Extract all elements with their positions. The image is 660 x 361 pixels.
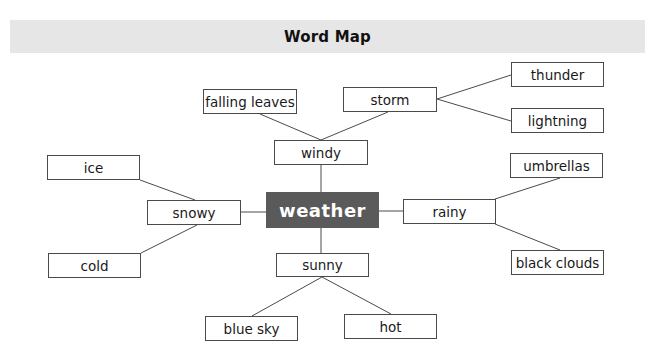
node-label: falling leaves bbox=[205, 94, 294, 110]
node-label: black clouds bbox=[516, 255, 600, 271]
node-label: thunder bbox=[531, 67, 584, 83]
edge-snowy-cold bbox=[141, 225, 197, 253]
node-storm: storm bbox=[343, 87, 437, 112]
node-rainy: rainy bbox=[403, 199, 496, 224]
node-label: umbrellas bbox=[523, 158, 590, 174]
node-cold: cold bbox=[48, 253, 141, 278]
node-label: snowy bbox=[173, 205, 216, 221]
node-label: rainy bbox=[432, 204, 466, 220]
node-snowy: snowy bbox=[147, 200, 241, 225]
edge-sunny-blue-sky bbox=[252, 277, 322, 316]
node-falling-leaves: falling leaves bbox=[203, 89, 297, 114]
node-label: weather bbox=[279, 200, 366, 221]
node-label: cold bbox=[80, 258, 108, 274]
node-label: hot bbox=[379, 319, 401, 335]
edge-rainy-black-clouds bbox=[495, 224, 560, 250]
node-umbrellas: umbrellas bbox=[510, 153, 603, 178]
node-sunny: sunny bbox=[276, 253, 369, 277]
node-thunder: thunder bbox=[511, 62, 604, 87]
edge-sunny-hot bbox=[322, 277, 391, 314]
node-ice: ice bbox=[47, 155, 140, 180]
node-lightning: lightning bbox=[511, 108, 604, 133]
edge-rainy-umbrellas bbox=[495, 178, 560, 199]
edge-snowy-ice bbox=[140, 180, 195, 200]
node-label: blue sky bbox=[224, 321, 280, 337]
node-black-clouds: black clouds bbox=[511, 250, 604, 275]
node-label: storm bbox=[370, 92, 409, 108]
node-label: ice bbox=[84, 160, 103, 176]
node-label: sunny bbox=[302, 257, 343, 273]
node-windy: windy bbox=[274, 140, 368, 165]
node-weather: weather bbox=[266, 192, 379, 228]
connector-lines bbox=[0, 0, 660, 361]
edge-windy-storm bbox=[321, 112, 388, 140]
node-blue-sky: blue sky bbox=[205, 316, 298, 341]
node-label: windy bbox=[301, 145, 341, 161]
edge-windy-falling-leaves bbox=[260, 114, 321, 140]
node-hot: hot bbox=[344, 314, 437, 339]
node-label: lightning bbox=[528, 113, 587, 129]
edge-storm-thunder bbox=[437, 75, 511, 99]
edge-storm-lightning bbox=[437, 99, 511, 121]
